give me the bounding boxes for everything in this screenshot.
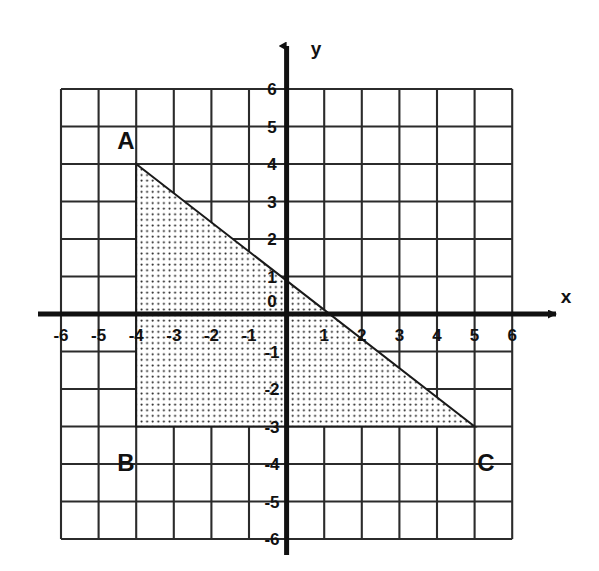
x-tick: 6 — [507, 326, 516, 345]
y-tick: -3 — [264, 418, 279, 437]
y-tick: 5 — [267, 118, 276, 137]
x-tick: -4 — [129, 326, 145, 345]
y-tick: -5 — [264, 493, 279, 512]
y-tick: 6 — [267, 80, 276, 99]
y-tick: 3 — [267, 193, 276, 212]
y-tick: -4 — [264, 455, 280, 474]
y-tick: -1 — [264, 343, 279, 362]
vertex-label-a: A — [117, 127, 134, 154]
shaded-triangle-ABC — [136, 164, 474, 427]
x-tick: 3 — [395, 326, 404, 345]
x-tick: -5 — [91, 326, 106, 345]
x-tick: -2 — [204, 326, 219, 345]
y-tick: -6 — [264, 530, 279, 549]
y-tick: -2 — [264, 380, 279, 399]
x-tick: 2 — [357, 326, 366, 345]
x-tick: 1 — [319, 326, 328, 345]
x-tick: 4 — [432, 326, 442, 345]
vertex-label-c: C — [477, 449, 494, 476]
x-tick: -3 — [166, 326, 181, 345]
x-tick: -6 — [53, 326, 68, 345]
coordinate-plane-figure: x y -6 -5 -4 -3 -2 -1 1 2 3 4 5 6 6 5 4 … — [0, 0, 599, 571]
graph-canvas: x y -6 -5 -4 -3 -2 -1 1 2 3 4 5 6 6 5 4 … — [0, 0, 599, 571]
y-axis-label: y — [311, 38, 322, 59]
triangle-region — [136, 164, 474, 427]
y-tick: 0 — [267, 292, 276, 311]
vertex-label-b: B — [117, 449, 134, 476]
y-tick: 1 — [267, 268, 276, 287]
x-tick: 5 — [470, 326, 479, 345]
y-tick: 2 — [267, 230, 276, 249]
y-tick: 4 — [267, 155, 277, 174]
x-axis-label: x — [561, 286, 572, 307]
x-tick: -1 — [241, 326, 256, 345]
